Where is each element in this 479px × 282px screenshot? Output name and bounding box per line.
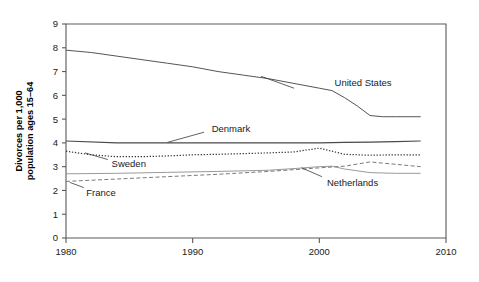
y-tick-label: 1 xyxy=(53,209,58,220)
series-label-netherlands: Netherlands xyxy=(327,177,378,188)
x-tick-label: 1990 xyxy=(182,246,203,257)
y-tick-label: 2 xyxy=(53,185,58,196)
divorce-rate-line-chart: 0123456789 1980199020002010 United State… xyxy=(0,0,479,282)
x-tick-label: 1980 xyxy=(55,246,76,257)
y-tick-label: 8 xyxy=(53,42,58,53)
y-tick-label: 7 xyxy=(53,66,58,77)
x-tick-label: 2010 xyxy=(435,246,456,257)
series-label-united-states: United States xyxy=(335,77,392,88)
leader-line-denmark xyxy=(167,132,204,142)
y-tick-label: 6 xyxy=(53,90,58,101)
axes-group xyxy=(66,24,446,238)
y-axis-ticks: 0123456789 xyxy=(53,18,66,243)
series-line-denmark xyxy=(66,141,421,143)
y-tick-label: 4 xyxy=(53,137,58,148)
y-tick-label: 9 xyxy=(53,18,58,29)
plot-frame xyxy=(66,24,446,238)
x-tick-label: 2000 xyxy=(309,246,330,257)
y-axis-title-line-1: Divorces per 1,000 xyxy=(14,90,24,171)
leader-line-sweden xyxy=(85,153,108,160)
y-tick-label: 3 xyxy=(53,161,58,172)
y-tick-label: 5 xyxy=(53,114,58,125)
series-label-sweden: Sweden xyxy=(112,158,146,169)
series-label-france: France xyxy=(86,187,116,198)
x-axis-ticks: 1980199020002010 xyxy=(55,238,456,257)
leader-line-netherlands xyxy=(302,168,322,177)
y-axis-title: Divorces per 1,000population ages 15–64 xyxy=(14,81,35,180)
chart-canvas: 0123456789 1980199020002010 United State… xyxy=(0,0,479,282)
y-axis-title-line-2: population ages 15–64 xyxy=(25,81,35,180)
y-tick-label: 0 xyxy=(53,232,58,243)
series-line-sweden xyxy=(66,148,421,157)
leader-line-france xyxy=(70,182,84,187)
series-label-denmark: Denmark xyxy=(212,123,251,134)
